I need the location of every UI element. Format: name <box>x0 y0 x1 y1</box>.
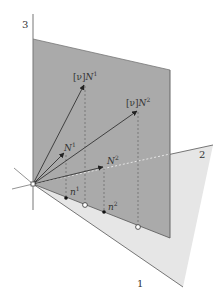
axis-2-label: 2 <box>199 149 205 160</box>
point-n1 <box>64 196 68 200</box>
origin-point <box>31 182 35 186</box>
axis-1-label: 1 <box>137 278 143 289</box>
point-nuN1-projection <box>83 203 88 208</box>
point-n2 <box>102 210 106 214</box>
vertical-plane <box>33 39 170 238</box>
axis-2-back <box>12 184 33 189</box>
point-nuN2-projection <box>136 225 141 230</box>
projection-diagram: 3 2 1 [ν]N1 N1 [ν]N2 N2 n1 n2 <box>0 0 222 302</box>
axis-3-label: 3 <box>22 19 28 30</box>
axis-1-back <box>14 168 33 184</box>
